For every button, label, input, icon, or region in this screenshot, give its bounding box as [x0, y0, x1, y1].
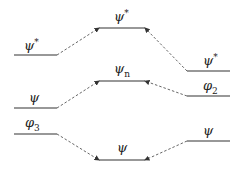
orbital-diagram: ψ*ψ*ψ*ψψnφ2φ3ψψ: [0, 0, 243, 173]
label-symbol: ψ: [24, 38, 34, 53]
label-symbol: φ: [203, 78, 212, 93]
connector-left-bottom-to-center-bottom: [57, 134, 99, 160]
label-right-middle: φ2: [203, 79, 218, 96]
label-symbol: ψ: [114, 9, 124, 24]
label-left-middle: ψ: [29, 91, 39, 104]
label-left-top: ψ*: [24, 38, 39, 52]
connector-right-top-to-center-top: [145, 28, 187, 71]
label-symbol: ψ: [114, 61, 124, 76]
label-subscript: n: [124, 69, 130, 79]
label-symbol: ψ: [203, 53, 213, 68]
label-right-bottom: ψ: [203, 124, 213, 137]
connector-right-middle-to-center-middle: [145, 81, 187, 96]
label-symbol: ψ: [203, 123, 213, 138]
label-symbol: ψ: [29, 90, 39, 105]
connector-left-top-to-center-top: [57, 28, 99, 55]
label-left-bottom: φ3: [25, 116, 40, 133]
label-center-bottom: ψ: [117, 141, 127, 154]
label-subscript: 2: [212, 86, 218, 96]
label-symbol: ψ: [117, 140, 127, 155]
label-superscript: *: [124, 8, 129, 18]
label-right-top: ψ*: [203, 53, 218, 67]
label-center-top: ψ*: [114, 9, 129, 23]
label-superscript: *: [34, 37, 39, 47]
connector-left-middle-to-center-middle: [57, 81, 99, 108]
label-superscript: *: [213, 52, 218, 62]
label-center-middle: ψn: [114, 62, 130, 79]
connector-right-bottom-to-center-bottom: [145, 141, 187, 160]
label-subscript: 3: [34, 123, 40, 133]
label-symbol: φ: [25, 115, 34, 130]
